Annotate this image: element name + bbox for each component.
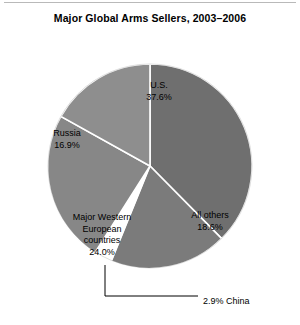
slice-label-mwe-percent: 24.0%: [54, 247, 150, 259]
slice-label-us: U.S. 37.6%: [134, 80, 184, 103]
chart-title: Major Global Arms Sellers, 2003–2006: [0, 12, 300, 24]
pie-plot-area: [0, 30, 300, 310]
top-divider-rule: [4, 2, 296, 3]
slice-label-us-name: U.S.: [150, 80, 168, 90]
slice-label-all-others-percent: 18.6%: [178, 222, 242, 234]
slice-label-all-others-name: All others: [191, 210, 229, 220]
china-leader-line: [105, 265, 198, 296]
slice-label-mwe-line2: European: [54, 224, 150, 236]
slice-label-russia: Russia 16.9%: [36, 128, 98, 151]
slice-label-mwe-line3: countries: [54, 235, 150, 247]
slice-label-us-percent: 37.6%: [134, 92, 184, 104]
pie-chart-figure: Major Global Arms Sellers, 2003–2006 U.S…: [0, 0, 300, 325]
slice-label-mwe-line1: Major Western: [73, 212, 131, 222]
slice-label-russia-percent: 16.9%: [36, 140, 98, 152]
pie-svg: [0, 30, 300, 310]
slice-callout-china: 2.9% China: [203, 296, 250, 306]
slice-label-all-others: All others 18.6%: [178, 210, 242, 233]
slice-label-russia-name: Russia: [53, 128, 81, 138]
slice-label-major-western-european: Major Western European countries 24.0%: [54, 212, 150, 258]
